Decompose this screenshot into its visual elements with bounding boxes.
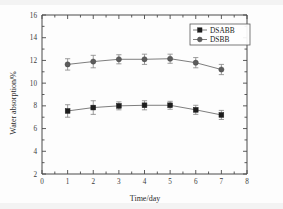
chart-svg: 246810121416 012345678 Water absorption/… — [0, 0, 283, 209]
data-point-marker[interactable] — [142, 57, 147, 62]
chart-legend[interactable]: DSABBDSBB — [190, 24, 250, 45]
x-tick-label: 3 — [117, 178, 121, 186]
data-point-marker[interactable] — [219, 113, 224, 118]
data-point-marker[interactable] — [116, 103, 121, 108]
chart-figure: 246810121416 012345678 Water absorption/… — [0, 0, 283, 209]
data-point-marker[interactable] — [91, 105, 96, 110]
legend-marker-circle — [197, 37, 202, 42]
y-tick-label: 12 — [30, 57, 38, 65]
data-point-marker[interactable] — [142, 103, 147, 108]
data-point-marker[interactable] — [193, 107, 198, 112]
data-point-marker[interactable] — [219, 67, 224, 72]
x-tick-label: 2 — [91, 178, 95, 186]
y-tick-label: 2 — [33, 171, 37, 179]
y-tick-label: 14 — [30, 34, 38, 42]
x-tick-label: 5 — [168, 178, 172, 186]
legend-marker-square — [198, 28, 202, 32]
series-dsabb — [65, 101, 224, 120]
data-point-marker[interactable] — [65, 109, 70, 114]
data-point-marker[interactable] — [65, 62, 70, 67]
series-dsbb — [65, 54, 224, 74]
y-tick-label: 8 — [33, 102, 37, 110]
x-tick-label: 8 — [245, 178, 249, 186]
x-tick-label: 1 — [66, 178, 70, 186]
data-point-marker[interactable] — [116, 57, 121, 62]
x-tick-label: 6 — [194, 178, 198, 186]
x-tick-label: 4 — [143, 178, 147, 186]
data-point-marker[interactable] — [193, 60, 198, 65]
x-tick-label: 0 — [40, 178, 44, 186]
legend-label: DSBB — [210, 35, 229, 44]
y-tick-label: 10 — [30, 80, 38, 88]
x-tick-label: 7 — [220, 178, 224, 186]
data-point-marker[interactable] — [168, 103, 173, 108]
legend-label: DSABB — [210, 26, 235, 35]
x-axis-title: Time/day — [130, 194, 160, 203]
data-point-marker[interactable] — [168, 56, 173, 61]
y-tick-label: 4 — [33, 148, 37, 156]
y-tick-label: 6 — [33, 125, 37, 133]
data-point-marker[interactable] — [91, 59, 96, 64]
data-series-group — [65, 54, 224, 119]
y-tick-label: 16 — [30, 12, 38, 20]
y-axis-title: Water absorption/% — [9, 71, 18, 135]
